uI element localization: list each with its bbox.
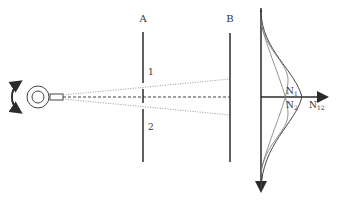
rotation-arrow-icon: [12, 82, 20, 112]
curve-n2: [261, 24, 288, 174]
ray-upper: [63, 79, 230, 95]
label-slit-1: 1: [148, 67, 154, 77]
label-barrier-b: B: [226, 13, 233, 24]
curve-n12: [261, 12, 302, 190]
label-n1: N1: [286, 86, 298, 97]
ray-lower: [63, 99, 230, 115]
diagram-canvas: A B 1 2 N1 N2 N12: [0, 0, 338, 202]
source-outer-ring: [27, 86, 49, 108]
label-n2: N2: [286, 100, 298, 111]
label-slit-2: 2: [148, 122, 154, 132]
label-barrier-a: A: [138, 13, 147, 24]
label-n12: N12: [309, 100, 325, 111]
source-nozzle: [50, 94, 63, 100]
source: [27, 86, 63, 108]
source-inner-ring: [32, 91, 44, 103]
curve-n1: [261, 20, 288, 170]
